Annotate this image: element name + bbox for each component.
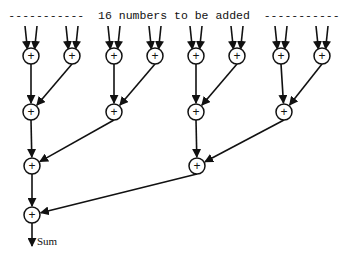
adder-node: +	[189, 158, 205, 174]
plus-icon: +	[68, 49, 75, 63]
input-arrow	[326, 26, 328, 49]
plus-icon: +	[110, 49, 117, 63]
edge-arrow	[196, 120, 197, 157]
adder-node: +	[23, 48, 39, 64]
input-arrow	[35, 26, 37, 49]
input-arrow	[108, 26, 110, 49]
edge-arrow	[31, 120, 32, 157]
plus-icon: +	[110, 105, 117, 119]
edge-arrow	[290, 64, 322, 105]
edge-arrow	[41, 174, 197, 213]
adder-node: +	[147, 48, 163, 64]
adder-node: +	[64, 48, 80, 64]
sum-output-label: Sum	[37, 235, 57, 247]
plus-icon: +	[193, 159, 200, 173]
edge-arrow	[40, 120, 114, 162]
input-arrow	[159, 26, 161, 49]
plus-icon: +	[233, 49, 240, 63]
plus-icon: +	[27, 105, 34, 119]
plus-icon: +	[192, 105, 199, 119]
input-arrow	[149, 26, 151, 49]
plus-icon: +	[28, 208, 35, 222]
input-arrow	[66, 26, 68, 49]
plus-icon: +	[27, 49, 34, 63]
edge-arrow	[37, 64, 72, 105]
adder-node: +	[24, 207, 40, 223]
plus-icon: +	[280, 105, 287, 119]
input-arrow	[200, 26, 202, 49]
adder-node: +	[23, 104, 39, 120]
plus-icon: +	[151, 49, 158, 63]
edge-arrow	[120, 64, 155, 105]
plus-icon: +	[318, 49, 325, 63]
input-arrow	[25, 26, 27, 49]
input-arrow	[285, 26, 287, 49]
adder-node: +	[188, 48, 204, 64]
input-arrow	[316, 26, 318, 49]
adder-node: +	[106, 48, 122, 64]
input-arrow	[76, 26, 78, 49]
adder-node: +	[273, 48, 289, 64]
adder-node: +	[229, 48, 245, 64]
reduction-tree-diagram: ----------- 16 numbers to be added -----…	[0, 0, 348, 260]
input-arrow	[118, 26, 120, 49]
plus-icon: +	[28, 159, 35, 173]
plus-icon: +	[277, 49, 284, 63]
edge-arrow	[202, 64, 237, 105]
input-arrow	[190, 26, 192, 49]
adder-tree: +++++++++++++++	[0, 0, 348, 260]
input-arrow	[275, 26, 277, 49]
input-arrow	[231, 26, 233, 49]
input-arrow	[241, 26, 243, 49]
adder-node: +	[106, 104, 122, 120]
adder-node: +	[24, 158, 40, 174]
edge-arrow	[281, 64, 283, 103]
adder-node: +	[276, 104, 292, 120]
adder-node: +	[188, 104, 204, 120]
edge-arrow	[205, 120, 284, 162]
adder-node: +	[314, 48, 330, 64]
plus-icon: +	[192, 49, 199, 63]
